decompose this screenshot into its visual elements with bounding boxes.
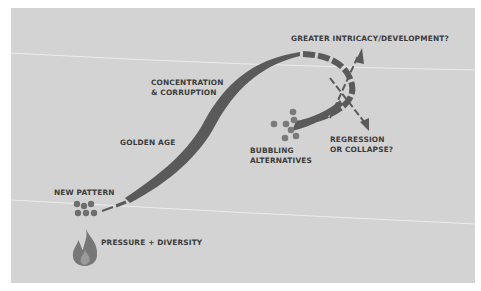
- dot: [288, 127, 295, 134]
- dot: [291, 117, 298, 124]
- label-golden-age: GOLDEN AGE: [120, 138, 175, 148]
- dot: [91, 210, 97, 216]
- label-regression-collapse: REGRESSION OR COLLAPSE?: [330, 135, 393, 154]
- label-bubbling-alternatives: BUBBLING ALTERNATIVES: [250, 146, 312, 165]
- arrow-down-head: [360, 118, 369, 131]
- dot: [75, 210, 81, 216]
- arrow-up-head: [355, 48, 364, 64]
- dot: [271, 121, 278, 128]
- label-pressure-diversity: PRESSURE + DIVERSITY: [101, 238, 202, 248]
- growth-curve: [125, 52, 300, 203]
- dot: [88, 201, 94, 207]
- dot: [74, 201, 80, 207]
- dot: [83, 210, 89, 216]
- crease-line: [11, 53, 475, 70]
- label-greater-intricacy: GREATER INTRICACY/DEVELOPMENT?: [291, 34, 449, 44]
- dot: [81, 203, 87, 209]
- dot: [290, 109, 297, 116]
- flame-icon: [73, 229, 97, 266]
- dot: [283, 121, 290, 128]
- label-concentration-corruption: CONCENTRATION & CORRUPTION: [151, 78, 224, 97]
- new-pattern-dots: [74, 201, 97, 216]
- dot: [282, 135, 289, 142]
- dot: [293, 133, 300, 140]
- leadin-dash: [102, 207, 113, 211]
- adaptive-cycle-diagram: [0, 0, 481, 291]
- leadin-dash: [116, 202, 126, 206]
- label-new-pattern: NEW PATTERN: [54, 188, 115, 198]
